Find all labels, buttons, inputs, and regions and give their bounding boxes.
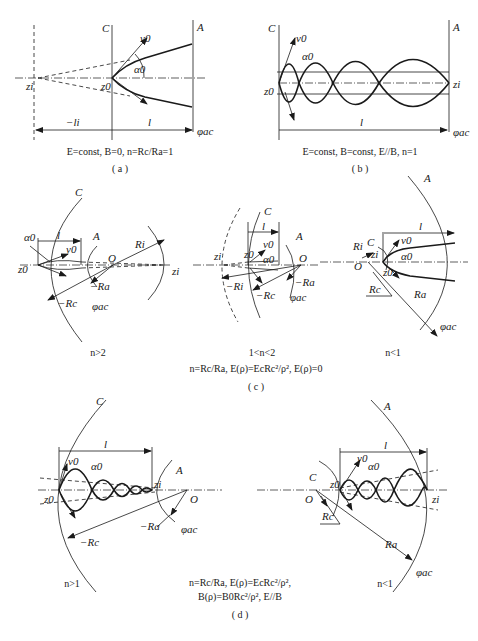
label-Ri: Ri [352, 240, 363, 252]
label-v0: v0 [140, 32, 151, 44]
label-l: l [57, 229, 60, 241]
label-phi-ac: φac [416, 566, 433, 578]
v0-vector-lower [343, 493, 352, 510]
label-Ra: Ra [413, 288, 427, 300]
label-O: O [108, 252, 116, 264]
alpha0-leader [30, 246, 50, 262]
label-alpha0: α0 [263, 253, 275, 265]
v0-vector-lower [250, 268, 262, 283]
anode-arc [408, 176, 447, 330]
label-v0: v0 [68, 455, 79, 467]
label-Ra: Ra [384, 538, 398, 550]
v0-vector-lower [38, 265, 66, 276]
regime-label: n>1 [64, 578, 80, 589]
label-z0: z0 [329, 478, 340, 490]
panel-d-n-lt-1: A C v0 α0 l z0 zi O Rc Ra φac n<1 [257, 400, 447, 592]
regime-label: n>2 [90, 347, 106, 358]
label-C: C [264, 205, 272, 217]
Ra-radius [171, 490, 187, 515]
virtual-ray-upper [82, 262, 165, 265]
trajectory-lower [112, 78, 192, 107]
label-A: A [383, 400, 391, 412]
panel-d-conditions-line2: B(ρ)=B0Rc²/ρ², E//B [198, 591, 282, 603]
label-phi-ac: φac [440, 320, 457, 332]
label-C: C [96, 395, 104, 407]
label-O: O [190, 493, 198, 505]
helix-trajectory-2 [340, 469, 427, 502]
regime-label: n<1 [377, 578, 393, 589]
label-phi-ac: φac [181, 523, 198, 535]
label-zi: zi [213, 250, 221, 262]
regime-label: 1<n<2 [249, 347, 275, 358]
v0-vector-lower [285, 92, 294, 120]
Rc-radius [68, 490, 187, 538]
label-A: A [423, 172, 431, 184]
panel-b: C A v0 α0 z0 zi l φac E=const, B=const, … [263, 20, 470, 175]
electron-optics-diagram: C A v0 α0 z0 zi −li l φac E=const, B=0, … [0, 0, 478, 641]
label-O: O [299, 252, 307, 264]
label-z0: z0 [17, 263, 28, 275]
label-z0: z0 [243, 248, 254, 260]
v0-vector [279, 38, 295, 83]
label-v0: v0 [296, 32, 307, 44]
trajectory-lower [383, 262, 455, 281]
label-alpha0: α0 [368, 460, 380, 472]
label-phi-ac: φac [453, 126, 470, 138]
Ra-radius [368, 262, 437, 336]
Ra-radius [316, 490, 412, 560]
label-v0: v0 [66, 243, 77, 255]
helix-trajectory-2 [59, 480, 152, 511]
panel-b-caption: ( b ) [352, 163, 369, 175]
panel-a-conditions: E=const, B=0, n=Rc/Ra=1 [67, 146, 173, 157]
v0-vector-lower [112, 78, 147, 104]
label-v0: v0 [401, 234, 412, 246]
label-l: l [419, 220, 422, 232]
label-z0: z0 [263, 85, 274, 97]
label-zi: zi [25, 80, 33, 92]
label-Ra: −Ra [140, 520, 160, 532]
label-Rc: −Rc [58, 297, 77, 309]
label-l: l [360, 116, 363, 128]
panel-c-conditions: n=Rc/Ra, E(ρ)=EcRc²/ρ², E(ρ)=0 [190, 363, 323, 375]
label-Ra: −Ra [90, 280, 110, 292]
panel-c-1-lt-n-lt-2: C A v0 α0 l O −Ri −Rc −Ra z0 zi φac 1<n<… [193, 205, 320, 358]
label-Rc: Rc [321, 510, 334, 522]
label-phi-ac: φac [290, 291, 307, 303]
label-C: C [367, 236, 375, 248]
label-zi: zi [452, 78, 460, 90]
label-alpha0: α0 [91, 460, 103, 472]
label-O: O [305, 493, 313, 505]
label-zi: zi [153, 478, 161, 490]
label-C: C [75, 186, 83, 198]
panel-d-caption: ( d ) [232, 609, 249, 621]
panel-a: C A v0 α0 z0 zi −li l φac E=const, B=0, … [15, 20, 214, 175]
label-z0: z0 [382, 266, 393, 278]
label-l: l [104, 438, 107, 450]
label-Rc: Rc [368, 283, 381, 295]
label-z0: z0 [43, 493, 54, 505]
virtual-ray-lower [82, 265, 165, 268]
label-alpha0: α0 [24, 231, 36, 243]
panel-c-n-lt-1: A C v0 α0 l Ri O zi z0 Rc Ra φac n<1 [320, 172, 468, 358]
panel-b-conditions: E=const, B=const, E//B, n=1 [302, 146, 417, 157]
label-l: l [384, 439, 387, 451]
panel-c-caption: ( c ) [248, 381, 264, 393]
panel-a-caption: ( a ) [112, 163, 128, 175]
label-v0: v0 [357, 452, 368, 464]
virtual-ray-lower [224, 265, 248, 268]
label-alpha0: α0 [401, 250, 413, 262]
label-A: A [175, 464, 183, 476]
label-A: A [295, 230, 303, 242]
label-l: l [148, 116, 151, 128]
virtual-ray-upper [224, 262, 248, 265]
label-Ri: −Ri [226, 280, 243, 292]
v0-vector-lower [61, 494, 75, 518]
label-alpha0: α0 [134, 63, 146, 75]
label-C: C [102, 22, 110, 34]
cathode-arc [58, 400, 106, 592]
helix-trajectory-1 [59, 469, 152, 500]
label-phi-ac: φac [92, 300, 109, 312]
label-zi: zi [370, 248, 378, 260]
cathode-arc [51, 198, 82, 342]
label-Rc: −Rc [256, 289, 275, 301]
